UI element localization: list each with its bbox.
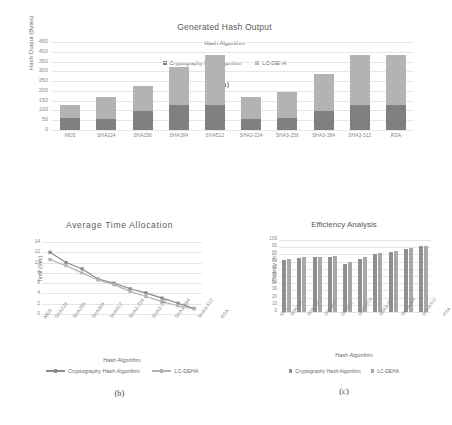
bar-group	[370, 240, 385, 312]
y-tick-label: 20	[247, 295, 277, 300]
bar-slot	[378, 42, 414, 130]
stacked-bar	[350, 55, 370, 130]
data-point-marker	[80, 271, 83, 274]
y-tick-label: 50	[247, 273, 277, 278]
y-tick-label: 0	[247, 309, 277, 314]
x-tick-label: RSA	[378, 132, 414, 138]
chart-a-plot-area: 050100150200250300350400450	[52, 42, 414, 130]
stacked-bar	[169, 67, 189, 130]
y-tick-label: 90	[247, 244, 277, 249]
y-tick-label: 100	[247, 237, 277, 242]
y-tick-label: 300	[18, 68, 48, 74]
x-tick-label: SHA384	[161, 132, 197, 138]
y-tick-label: 200	[18, 88, 48, 94]
y-tick-label: 4	[10, 290, 40, 295]
bar-slot	[305, 42, 341, 130]
y-tick-label: 40	[247, 280, 277, 285]
legend-item-lc-deha: LC-DEHA	[152, 368, 199, 374]
y-tick-label: 70	[247, 259, 277, 264]
bar-segment-cryptography-hash-algorithm	[205, 105, 225, 130]
bar-segment-lc-deha	[350, 55, 370, 105]
chart-a-title: Generated Hash Output	[0, 22, 449, 32]
stacked-bar	[277, 92, 297, 130]
stacked-bar	[314, 74, 334, 130]
x-tick-label: SHA3-256	[269, 132, 305, 138]
bar-lc-deha	[302, 257, 306, 312]
legend-line-marker-series2	[152, 369, 172, 373]
legend-swatch-series2	[371, 369, 375, 373]
bar-lc-deha	[394, 251, 398, 312]
data-point-marker	[48, 251, 51, 254]
data-point-marker	[64, 264, 67, 267]
data-point-marker	[64, 261, 67, 264]
bar-segment-lc-deha	[277, 92, 297, 117]
y-tick-label: 450	[18, 39, 48, 45]
y-tick-label: 150	[18, 98, 48, 104]
chart-c-title: Efficiency Analysis	[239, 220, 449, 229]
y-tick-label: 400	[18, 49, 48, 55]
bar-slot	[124, 42, 160, 130]
legend-swatch-series1	[289, 369, 293, 373]
figure-b-average-time-allocation: Average Time Allocation Time (Sec) 02468…	[0, 210, 239, 425]
chart-b-legend: Cryptography Hash Algorithm LC-DEHA	[12, 368, 232, 374]
bar-segment-lc-deha	[96, 97, 116, 119]
data-point-marker	[48, 258, 51, 261]
chart-b-x-axis-label: Hash Algorithm	[42, 357, 202, 363]
chart-c-x-ticks: MD5SHA224SHA256SHA384SHA512SHA3-224SHA3-…	[279, 314, 431, 319]
data-point-marker	[112, 283, 115, 286]
figure-c-efficiency-analysis: Efficiency Analysis Efficiency (%) 01020…	[239, 210, 449, 425]
bar-cryptography-hash-algorithm	[373, 254, 377, 312]
bar-segment-cryptography-hash-algorithm	[133, 111, 153, 130]
chart-c-x-axis-label: Hash Algorithm	[269, 352, 439, 358]
bar-group	[279, 240, 294, 312]
stacked-bar	[386, 55, 406, 130]
data-point-marker	[96, 278, 99, 281]
bar-segment-cryptography-hash-algorithm	[386, 105, 406, 130]
bar-lc-deha	[378, 253, 382, 312]
chart-c-legend: Cryptography Hash Algorithm LC-DEHA	[244, 368, 444, 374]
legend-item-cryptography-hash-algorithm: Cryptography Hash Algorithm	[46, 368, 140, 374]
figure-b-caption: (b)	[0, 388, 239, 398]
bar-slot	[233, 42, 269, 130]
chart-b-x-ticks: MD5SHA224SHA256SHA384SHA512SHA3-224SHA3-…	[42, 316, 202, 322]
y-tick-label: 6	[10, 280, 40, 285]
legend-line-marker-series1	[46, 369, 66, 373]
bar-segment-cryptography-hash-algorithm	[60, 118, 80, 131]
legend-label-series1: Cryptography Hash Algorithm	[295, 368, 360, 374]
bar-segment-cryptography-hash-algorithm	[314, 111, 334, 130]
y-tick-label: 8	[10, 270, 40, 275]
gridline	[279, 312, 431, 313]
x-tick-label: SHA224	[88, 132, 124, 138]
data-point-marker	[128, 290, 131, 293]
bar-segment-lc-deha	[386, 55, 406, 105]
bar-segment-cryptography-hash-algorithm	[350, 105, 370, 130]
bar-slot	[161, 42, 197, 130]
stacked-bar	[96, 97, 116, 130]
y-tick-label: 350	[18, 59, 48, 65]
figure-c-caption: (c)	[239, 386, 449, 396]
gridline	[52, 130, 414, 131]
x-tick-label: SHA3-384	[305, 132, 341, 138]
y-tick-label: 60	[247, 266, 277, 271]
stacked-bar	[133, 86, 153, 130]
y-tick-label: 10	[247, 302, 277, 307]
chart-a-x-ticks: MD5SHA224SHA256SHA384SHA512SHA3-224SHA3-…	[52, 132, 414, 138]
bar-cryptography-hash-algorithm	[358, 259, 362, 312]
bar-segment-lc-deha	[241, 97, 261, 119]
y-tick-label: 50	[18, 117, 48, 123]
y-tick-label: 30	[247, 287, 277, 292]
bar-segment-cryptography-hash-algorithm	[169, 105, 189, 130]
bar-segment-lc-deha	[169, 67, 189, 105]
y-tick-label: 10	[10, 260, 40, 265]
stacked-bar	[241, 97, 261, 130]
bar-slot	[342, 42, 378, 130]
chart-b-title: Average Time Allocation	[0, 220, 239, 230]
bar-slot	[88, 42, 124, 130]
x-tick-label: SHA512	[197, 132, 233, 138]
legend-label-series2: LC-DEHA	[174, 368, 198, 374]
y-tick-label: 12	[10, 249, 40, 254]
bar-lc-deha	[287, 259, 291, 312]
bar-slot	[197, 42, 233, 130]
data-point-marker	[192, 307, 195, 310]
legend-label-series1: Cryptography Hash Algorithm	[68, 368, 140, 374]
